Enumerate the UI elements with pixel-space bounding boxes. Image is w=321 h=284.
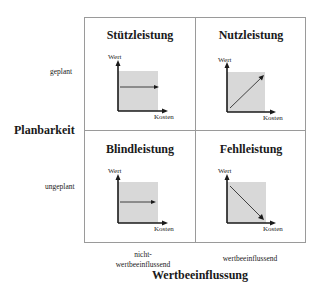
x-axis-title: Wertbeeinflussung	[152, 268, 248, 283]
quadrant-title-fehlleistung: Fehlleistung	[196, 142, 306, 157]
mini-chart-blindleistung	[112, 174, 182, 244]
y-axis-label-wert: Wert	[108, 53, 121, 61]
y-axis-label-wert: Wert	[218, 56, 231, 64]
quadrant-title-nutzleistung: Nutzleistung	[196, 28, 306, 43]
x-axis-label-kosten: Kosten	[263, 225, 283, 233]
column-label-nicht-wertbeeinflussend: nicht- wertbeeinflussend	[108, 250, 178, 270]
quadrant-title-stuetzleistung: Stützleistung	[85, 28, 195, 43]
quadrant-title-blindleistung: Blindleistung	[85, 142, 195, 157]
x-axis-label-kosten: Kosten	[263, 114, 283, 122]
x-axis-label-kosten: Kosten	[154, 113, 174, 121]
y-axis-title: Planbarkeit	[14, 123, 75, 138]
flat-trend-chart	[112, 174, 182, 244]
y-axis-label-wert: Wert	[218, 167, 231, 175]
y-axis-label-wert: Wert	[108, 167, 121, 175]
column-label-wertbeeinflussend: wertbeeinflussend	[215, 254, 285, 264]
row-label-ungeplant: ungeplant	[45, 182, 75, 191]
x-axis-label-kosten: Kosten	[154, 225, 174, 233]
decreasing-trend-chart	[222, 174, 292, 244]
mini-chart-fehlleistung	[222, 174, 292, 244]
column-label-line1: nicht-	[108, 250, 178, 260]
row-label-geplant: geplant	[50, 67, 72, 76]
